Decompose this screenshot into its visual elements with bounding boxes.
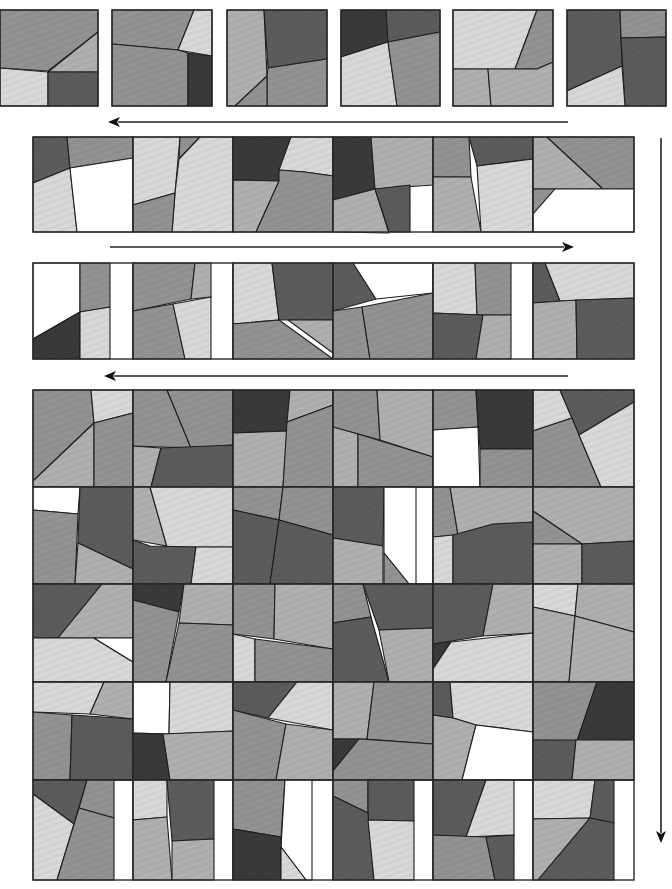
texture-overlay [233,431,287,487]
texture-overlay [233,584,275,639]
texture-overlay [167,780,214,841]
tile-row3-17 [533,263,634,359]
texture-overlay [453,69,491,106]
texture-overlay [545,263,634,301]
texture-overlay [362,293,433,359]
texture-overlay [48,72,98,106]
tile-grid-23 [533,390,634,487]
tile-row2-10 [433,137,533,232]
texture-overlay [94,413,133,487]
tile-region-white [133,682,170,734]
tile-row1-2 [227,10,327,106]
texture-overlay [169,682,233,734]
texture-overlay [163,731,233,780]
texture-overlay [191,547,233,584]
texture-overlay [533,300,577,359]
arrow-row2-right-icon [110,242,574,252]
tile-grid-44 [233,780,333,880]
tile-grid-47 [533,780,634,880]
texture-overlay [233,829,281,880]
tile-grid-30 [33,584,133,682]
texture-overlay [621,37,666,106]
texture-overlay [233,390,290,433]
texture-overlay [576,298,634,359]
tile-grid-20 [233,390,333,487]
tile-grid-37 [133,682,233,780]
tile-grid-24 [33,487,133,584]
tile-grid-41 [533,682,634,780]
arrow-vertical-down-icon [656,138,666,843]
texture-overlay [133,817,172,880]
tile-region-white [70,158,133,232]
texture-overlay [368,780,414,821]
tile-row1-5 [567,10,666,106]
texture-overlay [276,724,333,780]
texture-overlay [533,740,576,780]
texture-overlay [333,487,384,546]
tile-row2-8 [233,137,333,232]
texture-overlay [572,740,634,780]
texture-overlay [363,584,433,630]
texture-overlay [274,584,333,649]
texture-overlay [371,137,433,189]
texture-overlay [582,541,634,584]
tile-grid-43 [133,780,233,880]
texture-overlay [433,137,471,177]
snake-tile-diagram [0,0,672,889]
texture-overlay [133,780,167,820]
texture-overlay [166,623,233,682]
tile-grid-27 [333,487,433,584]
texture-overlay [80,307,110,359]
texture-overlay [388,32,440,106]
texture-overlay [480,449,533,487]
texture-overlay [533,607,575,682]
arrow-row3-left-icon [104,371,568,381]
tile-grid-18 [33,390,133,487]
tile-grid-26 [233,487,333,584]
tile-grid-19 [133,390,233,487]
tile-grid-34 [433,584,533,682]
tile-region-white [433,427,480,487]
tile-grid-25 [133,487,233,584]
tile-grid-46 [433,780,533,880]
texture-overlay [620,10,666,38]
tile-row2-11 [533,137,634,232]
tile-grid-42 [33,780,133,880]
texture-overlay [112,44,188,106]
tile-row3-13 [133,263,233,359]
tile-row2-7 [133,137,233,232]
tile-grid-22 [433,390,533,487]
tile-grid-40 [433,682,533,780]
texture-overlay [433,535,453,584]
texture-overlay [188,53,212,106]
tile-grid-39 [333,682,433,780]
tile-row3-16 [433,263,533,359]
texture-overlay [233,263,279,324]
texture-overlay [533,780,595,819]
tile-grid-33 [333,584,433,682]
texture-overlay [475,263,511,315]
texture-overlay [233,634,255,682]
texture-overlay [433,835,495,880]
texture-overlay [333,538,383,584]
texture-overlay [476,390,533,449]
texture-overlay [272,263,333,320]
texture-overlay [368,820,414,880]
texture-overlay [264,10,327,68]
texture-overlay [33,510,78,584]
texture-overlay [433,313,483,359]
texture-overlay [433,263,477,315]
texture-overlay [477,159,533,232]
texture-overlay [433,390,478,430]
tile-row1-1 [112,10,212,106]
texture-overlay [70,715,133,780]
tile-row3-12 [33,263,133,359]
tile-region-white [33,487,80,514]
texture-overlay [367,682,433,744]
tile-row2-6 [33,137,133,232]
tile-row2-9 [333,137,433,233]
texture-overlay [333,427,358,487]
texture-overlay [80,263,110,312]
texture-overlay [533,544,582,584]
tile-row3-15 [333,263,433,359]
